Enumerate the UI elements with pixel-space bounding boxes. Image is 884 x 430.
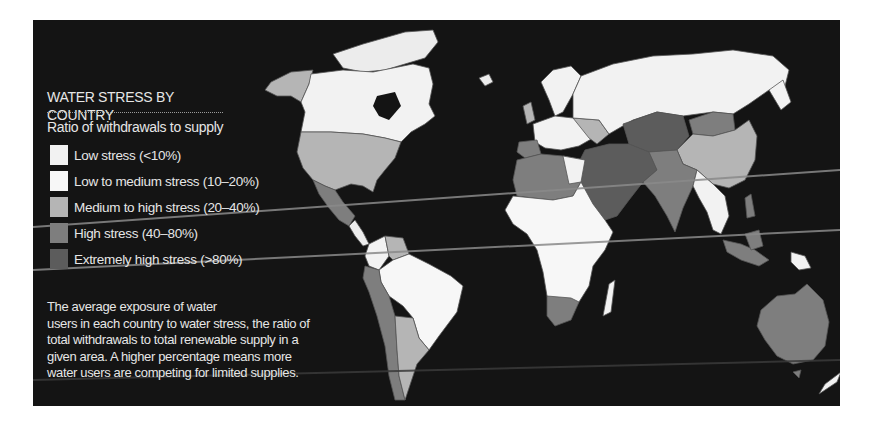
- legend-label-extremely-high: Extremely high stress (>80%): [74, 252, 242, 267]
- legend-item-medium-high: Medium to high stress (20–40%): [50, 196, 259, 218]
- legend-label-high: High stress (40–80%): [74, 226, 198, 241]
- infographic-panel: WATER STRESS BY COUNTRY Ratio of withdra…: [33, 20, 840, 406]
- legend-item-low: Low stress (<10%): [50, 144, 259, 166]
- legend-item-extremely-high: Extremely high stress (>80%): [50, 248, 259, 270]
- description-line-5: water users are competing for limited su…: [47, 365, 347, 382]
- legend-label-low-medium: Low to medium stress (10–20%): [74, 174, 259, 189]
- map-description: The average exposure of water users in e…: [47, 299, 347, 382]
- legend-swatch-medium-high: [50, 197, 68, 217]
- legend-item-high: High stress (40–80%): [50, 222, 259, 244]
- legend-swatch-extremely-high: [50, 249, 68, 269]
- title-divider: [47, 112, 223, 113]
- description-line-4: given area. A higher percentage means mo…: [47, 349, 347, 366]
- legend-label-low: Low stress (<10%): [74, 148, 181, 163]
- legend: Low stress (<10%) Low to medium stress (…: [50, 144, 259, 274]
- legend-label-medium-high: Medium to high stress (20–40%): [74, 200, 259, 215]
- legend-swatch-low: [50, 145, 68, 165]
- description-line-3: total withdrawals to total renewable sup…: [47, 332, 347, 349]
- description-line-1: The average exposure of water: [47, 299, 347, 316]
- map-title-line-1: WATER STRESS BY: [47, 88, 174, 106]
- legend-heading: Ratio of withdrawals to supply: [47, 119, 223, 135]
- legend-swatch-low-medium: [50, 171, 68, 191]
- description-line-2: users in each country to water stress, t…: [47, 316, 347, 333]
- legend-item-low-medium: Low to medium stress (10–20%): [50, 170, 259, 192]
- legend-swatch-high: [50, 223, 68, 243]
